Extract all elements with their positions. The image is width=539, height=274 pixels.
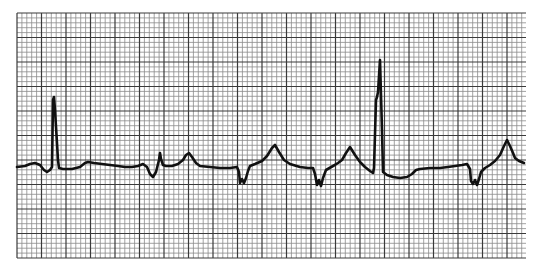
ecg-strip-chart	[0, 0, 539, 274]
